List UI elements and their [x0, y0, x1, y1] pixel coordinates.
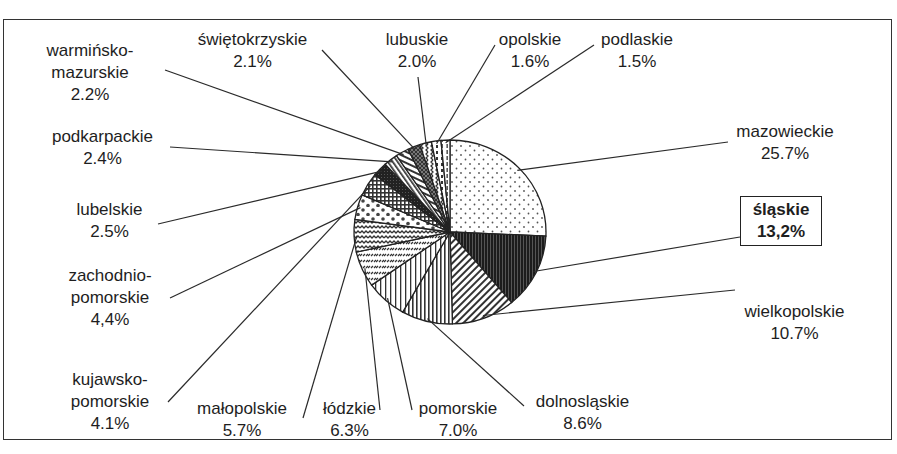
- label-malopolskie: małopolskie 5.7%: [187, 398, 297, 442]
- label-line: małopolskie: [187, 398, 297, 420]
- leader-line: [517, 142, 728, 170]
- label-line: lubuskie: [372, 29, 462, 51]
- label-lubuskie: lubuskie 2.0%: [372, 29, 462, 73]
- label-line: pomorskie: [55, 391, 165, 413]
- label-line: warmińsko-: [25, 40, 155, 62]
- label-lubelskie: lubelskie 2.5%: [62, 199, 157, 243]
- label-line: mazurskie: [25, 62, 155, 84]
- label-value: 2.0%: [372, 51, 462, 73]
- label-line: opolskie: [490, 29, 570, 51]
- label-value: 2.4%: [40, 148, 165, 170]
- label-podlaskie: podlaskie 1.5%: [592, 29, 682, 73]
- label-line: pomorskie: [55, 287, 165, 309]
- label-value: 1.6%: [490, 51, 570, 73]
- label-opolskie: opolskie 1.6%: [490, 29, 570, 73]
- label-line: podlaskie: [592, 29, 682, 51]
- leader-line: [533, 237, 740, 272]
- label-value: 4,4%: [55, 309, 165, 331]
- label-line: świętokrzyskie: [185, 29, 320, 51]
- label-lodzkie: łódzkie 6.3%: [312, 398, 387, 442]
- label-line: podkarpackie: [40, 126, 165, 148]
- label-pomorskie: pomorskie 7.0%: [408, 398, 508, 442]
- label-wielkopolskie: wielkopolskie 10.7%: [732, 301, 857, 345]
- leader-line: [170, 147, 392, 162]
- label-value: 7.0%: [408, 420, 508, 442]
- leader-line: [303, 236, 357, 418]
- label-line: łódzkie: [312, 398, 387, 420]
- label-value: 25.7%: [730, 143, 840, 165]
- label-value: 13,2%: [746, 221, 816, 243]
- label-zachodnio-pomorskie: zachodnio- pomorskie 4,4%: [55, 265, 165, 331]
- label-line: dolnosląskie: [525, 391, 640, 413]
- leader-line: [158, 171, 382, 224]
- label-line: pomorskie: [408, 398, 508, 420]
- label-line: wielkopolskie: [732, 301, 857, 323]
- label-slaskie-highlighted: śląskie 13,2%: [740, 196, 822, 246]
- leader-line: [170, 208, 360, 298]
- label-value: 5.7%: [187, 420, 297, 442]
- label-swietokrzyskie: świętokrzyskie 2.1%: [185, 29, 320, 73]
- label-dolnoslaskie: dolnosląskie 8.6%: [525, 391, 640, 435]
- label-line: kujawsko-: [55, 369, 165, 391]
- label-kujawsko-pomorskie: kujawsko- pomorskie 4.1%: [55, 369, 165, 435]
- label-warminsko-mazurskie: warmińsko- mazurskie 2.2%: [25, 40, 155, 106]
- label-value: 1.5%: [592, 51, 682, 73]
- label-podkarpackie: podkarpackie 2.4%: [40, 126, 165, 170]
- leader-line: [427, 319, 524, 406]
- label-value: 2.2%: [25, 84, 155, 106]
- label-line: lubelskie: [62, 199, 157, 221]
- pie-slices: [354, 140, 546, 324]
- label-value: 2.1%: [185, 51, 320, 73]
- label-value: 4.1%: [55, 413, 165, 435]
- label-line: zachodnio-: [55, 265, 165, 287]
- pie-slice: [450, 140, 546, 236]
- label-mazowieckie: mazowieckie 25.7%: [730, 121, 840, 165]
- label-line: mazowieckie: [730, 121, 840, 143]
- leader-line: [165, 70, 404, 155]
- label-value: 8.6%: [525, 413, 640, 435]
- leader-line: [418, 77, 426, 146]
- label-value: 10.7%: [732, 323, 857, 345]
- label-value: 6.3%: [312, 420, 387, 442]
- label-value: 2.5%: [62, 221, 157, 243]
- label-line: śląskie: [746, 199, 816, 221]
